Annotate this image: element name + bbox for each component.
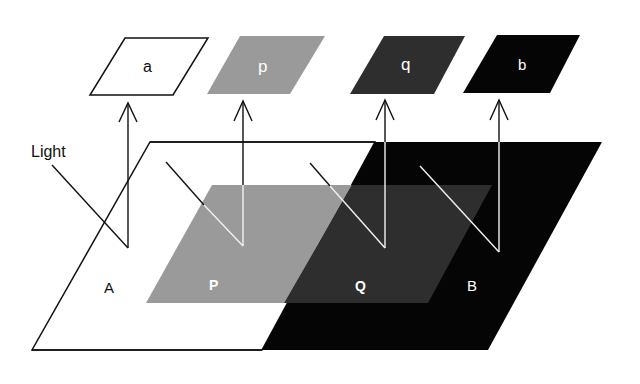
light-label: Light xyxy=(31,143,66,160)
label-B: B xyxy=(467,277,477,294)
label-Q: Q xyxy=(355,278,366,294)
label-patch-q: q xyxy=(401,55,410,74)
label-patch-p: p xyxy=(258,57,267,76)
label-patch-a: a xyxy=(143,58,152,75)
label-A: A xyxy=(104,279,114,296)
label-P: P xyxy=(209,277,218,293)
label-patch-b: b xyxy=(518,56,526,73)
lightness-diagram: Light A P Q B a p q b xyxy=(0,0,640,384)
